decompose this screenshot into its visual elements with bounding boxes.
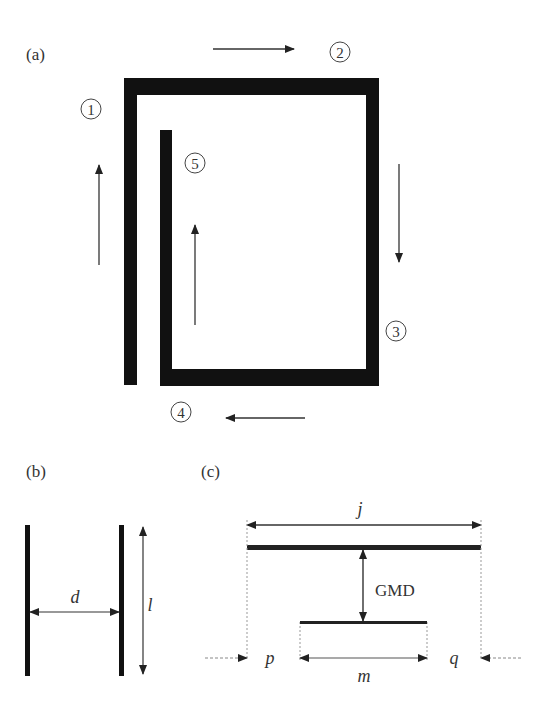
- distance-label: d: [71, 587, 81, 607]
- svg-text:2: 2: [336, 45, 344, 61]
- panel-b-label: (b): [26, 462, 46, 481]
- conductor-loop: [124, 78, 379, 386]
- panel-a-label: (a): [26, 45, 45, 64]
- segment-marker-1: 1: [81, 99, 101, 119]
- left-offset-label: p: [264, 648, 275, 668]
- lower-length-label: m: [358, 666, 371, 686]
- panel-a: (a) 1 2 3 4: [26, 42, 406, 422]
- conductor-left: [25, 525, 30, 676]
- segment-5-bar: [160, 130, 172, 386]
- svg-text:3: 3: [392, 324, 400, 340]
- segment-1-bar: [124, 78, 137, 385]
- length-label: l: [147, 595, 152, 615]
- right-offset-label: q: [450, 648, 459, 668]
- segment-4-bar: [160, 369, 379, 386]
- inductance-figure: (a) 1 2 3 4: [0, 0, 547, 713]
- segment-marker-5: 5: [185, 153, 205, 173]
- svg-text:5: 5: [191, 156, 199, 172]
- upper-length-label: j: [355, 499, 362, 519]
- gmd-label: GMD: [375, 581, 415, 600]
- svg-text:4: 4: [177, 405, 185, 421]
- upper-conductor: [247, 545, 481, 550]
- segment-marker-4: 4: [171, 402, 191, 422]
- segment-marker-3: 3: [386, 321, 406, 341]
- segment-3-bar: [366, 78, 379, 386]
- svg-text:1: 1: [87, 102, 95, 118]
- panel-c: (c) j GMD p m q: [201, 462, 521, 686]
- segment-marker-2: 2: [330, 42, 350, 62]
- conductor-right: [119, 525, 124, 676]
- panel-b: (b) d l: [25, 462, 153, 676]
- lower-conductor: [300, 621, 427, 624]
- panel-c-label: (c): [201, 462, 220, 481]
- segment-2-bar: [124, 78, 379, 95]
